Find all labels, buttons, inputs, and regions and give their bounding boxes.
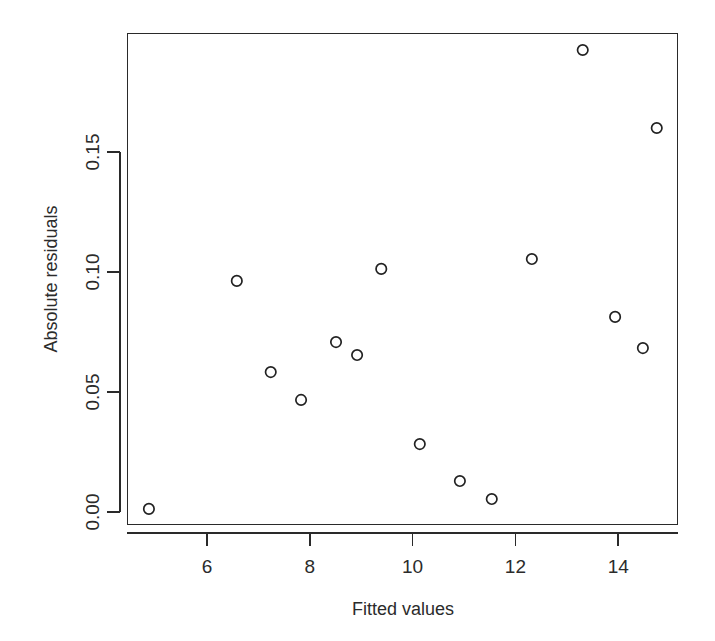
x-tick-label: 14 (608, 556, 630, 577)
data-point (232, 276, 242, 286)
y-tick-label: 0.15 (82, 134, 103, 171)
data-point (527, 254, 537, 264)
plot-frame (128, 34, 678, 525)
data-point (638, 343, 648, 353)
y-axis-title: Absolute residuals (41, 205, 61, 352)
data-point (266, 367, 276, 377)
data-point (376, 264, 386, 274)
data-point (331, 337, 341, 347)
x-tick-label: 12 (505, 556, 526, 577)
x-tick-group: 68101214 (202, 533, 629, 577)
y-tick-label: 0.05 (82, 374, 103, 411)
data-point (296, 395, 306, 405)
chart-page: 68101214 0.000.050.100.15 Fitted values … (0, 0, 715, 641)
data-point (578, 45, 588, 55)
data-point (144, 504, 154, 514)
data-point (415, 439, 425, 449)
data-point (652, 123, 662, 133)
scatter-plot: 68101214 0.000.050.100.15 Fitted values … (0, 0, 715, 641)
data-point (352, 350, 362, 360)
data-point (487, 494, 497, 504)
y-tick-label: 0.00 (82, 494, 103, 531)
x-tick-label: 6 (202, 556, 213, 577)
x-tick-label: 10 (402, 556, 423, 577)
y-tick-group: 0.000.050.100.15 (82, 134, 120, 531)
data-point (610, 312, 620, 322)
x-axis-title: Fitted values (352, 599, 454, 619)
y-tick-label: 0.10 (82, 254, 103, 291)
data-points-group (144, 45, 662, 514)
data-point (455, 476, 465, 486)
x-tick-label: 8 (305, 556, 316, 577)
